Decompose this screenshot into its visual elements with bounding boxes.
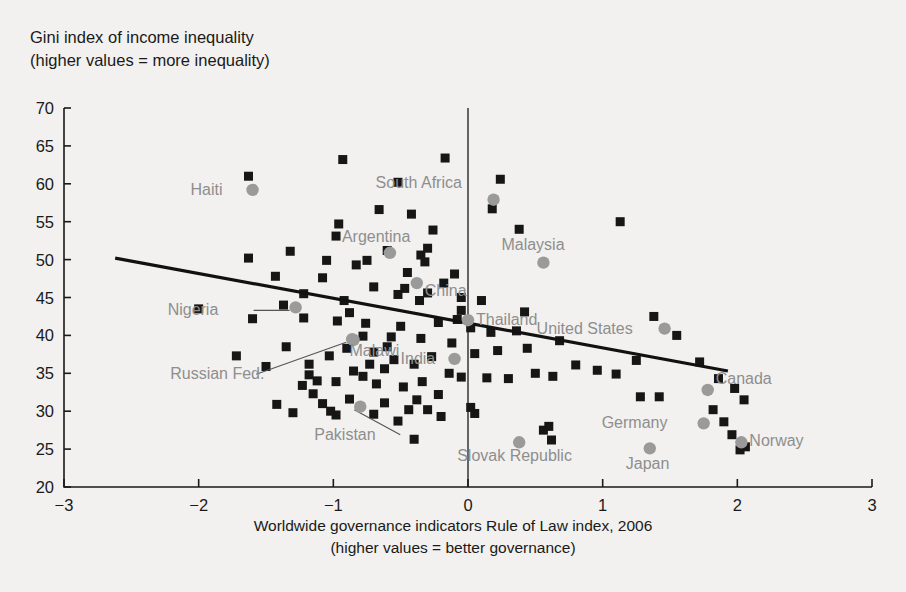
data-points-unlabeled bbox=[194, 154, 750, 455]
data-point-labels: HaitiArgentinaSouth AfricaMalaysiaChinaN… bbox=[168, 174, 804, 473]
y-tick-label: 25 bbox=[36, 440, 54, 458]
data-point bbox=[325, 351, 334, 360]
data-point-label: China bbox=[425, 282, 467, 299]
data-point bbox=[407, 210, 416, 219]
data-point bbox=[445, 369, 454, 378]
x-tick-label: 2 bbox=[733, 496, 742, 514]
data-point bbox=[496, 175, 505, 184]
data-point bbox=[482, 373, 491, 382]
data-point bbox=[672, 331, 681, 340]
data-point bbox=[313, 376, 322, 385]
data-point bbox=[477, 296, 486, 305]
data-point-highlighted bbox=[735, 436, 747, 448]
data-point bbox=[616, 217, 625, 226]
data-point bbox=[544, 422, 553, 431]
data-point bbox=[399, 382, 408, 391]
x-tick-label: 3 bbox=[867, 496, 876, 514]
data-point bbox=[380, 364, 389, 373]
x-tick-label: 1 bbox=[598, 496, 607, 514]
data-point-label: Argentina bbox=[342, 228, 411, 245]
data-point bbox=[318, 399, 327, 408]
data-point-label: Malaysia bbox=[501, 236, 564, 253]
data-point bbox=[418, 377, 427, 386]
data-point bbox=[612, 370, 621, 379]
data-point bbox=[288, 408, 297, 417]
chart-figure: Gini index of income inequality (higher … bbox=[0, 0, 906, 592]
data-point bbox=[352, 260, 361, 269]
data-point-highlighted bbox=[697, 417, 709, 429]
data-point bbox=[272, 400, 281, 409]
data-point bbox=[248, 314, 257, 323]
data-point-label: Japan bbox=[626, 455, 670, 472]
data-point bbox=[571, 360, 580, 369]
data-point-label: India bbox=[401, 350, 436, 367]
data-point bbox=[410, 435, 419, 444]
data-point-highlighted bbox=[644, 442, 656, 454]
x-tick-label: −1 bbox=[324, 496, 343, 514]
x-axis-title: Worldwide governance indicators Rule of … bbox=[0, 515, 906, 558]
data-point bbox=[437, 412, 446, 421]
data-point bbox=[470, 409, 479, 418]
data-point-highlighted bbox=[384, 247, 396, 259]
y-tick-label: 35 bbox=[36, 364, 54, 382]
data-point bbox=[415, 296, 424, 305]
data-point bbox=[345, 395, 354, 404]
data-point-highlighted bbox=[411, 277, 423, 289]
data-point bbox=[345, 308, 354, 317]
data-point bbox=[523, 344, 532, 353]
data-point bbox=[387, 332, 396, 341]
data-point-highlighted bbox=[702, 384, 714, 396]
data-point bbox=[322, 256, 331, 265]
data-point-label: Norway bbox=[749, 432, 803, 449]
data-point bbox=[286, 247, 295, 256]
data-point bbox=[332, 377, 341, 386]
data-point-label: Malawi bbox=[350, 342, 400, 359]
data-point bbox=[332, 232, 341, 241]
data-point bbox=[632, 356, 641, 365]
data-point-label: Pakistan bbox=[314, 426, 375, 443]
data-point bbox=[349, 367, 358, 376]
data-point bbox=[279, 301, 288, 310]
data-point bbox=[358, 332, 367, 341]
data-point-label: United States bbox=[537, 320, 633, 337]
data-point bbox=[709, 405, 718, 414]
data-point bbox=[515, 225, 524, 234]
data-point bbox=[338, 155, 347, 164]
y-tick-label: 70 bbox=[36, 99, 54, 117]
data-point bbox=[403, 268, 412, 277]
label-leader-lines bbox=[254, 310, 401, 434]
data-point bbox=[393, 417, 402, 426]
data-point bbox=[548, 372, 557, 381]
y-tick-label: 20 bbox=[36, 478, 54, 496]
data-point bbox=[727, 430, 736, 439]
x-axis-ticks: −3−2−10123 bbox=[55, 479, 877, 514]
x-tick-label: 0 bbox=[463, 496, 472, 514]
data-point-highlighted bbox=[448, 353, 460, 365]
scatter-plot-svg: 2025303540455055606570 −3−2−10123 HaitiA… bbox=[0, 0, 906, 592]
data-point bbox=[649, 312, 658, 321]
data-point bbox=[232, 351, 241, 360]
data-point-label: Russian Fed. bbox=[170, 365, 264, 382]
data-point bbox=[504, 374, 513, 383]
data-point bbox=[740, 395, 749, 404]
data-point-highlighted bbox=[354, 400, 366, 412]
y-axis-ticks: 2025303540455055606570 bbox=[36, 99, 71, 496]
data-point bbox=[369, 410, 378, 419]
data-point bbox=[457, 306, 466, 315]
data-point bbox=[531, 369, 540, 378]
data-point bbox=[719, 417, 728, 426]
y-tick-label: 60 bbox=[36, 175, 54, 193]
y-tick-label: 50 bbox=[36, 251, 54, 269]
data-point bbox=[547, 436, 556, 445]
data-point bbox=[450, 270, 459, 279]
data-point bbox=[636, 392, 645, 401]
data-point bbox=[369, 282, 378, 291]
data-point bbox=[375, 205, 384, 214]
data-point-highlighted bbox=[658, 322, 670, 334]
data-point-label: South Africa bbox=[376, 174, 462, 191]
x-tick-label: −3 bbox=[55, 496, 74, 514]
data-point bbox=[361, 319, 370, 328]
data-point bbox=[423, 244, 432, 253]
data-point bbox=[470, 349, 479, 358]
data-point-highlighted bbox=[289, 301, 301, 313]
